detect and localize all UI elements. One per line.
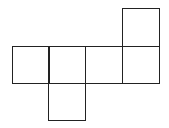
net-face-center-right xyxy=(85,46,123,84)
cube-net-diagram xyxy=(0,0,169,128)
net-face-center-left xyxy=(48,46,86,84)
net-face-right xyxy=(122,46,160,84)
net-face-bottom xyxy=(48,83,86,121)
net-face-top xyxy=(122,8,160,47)
net-face-left xyxy=(12,46,50,84)
